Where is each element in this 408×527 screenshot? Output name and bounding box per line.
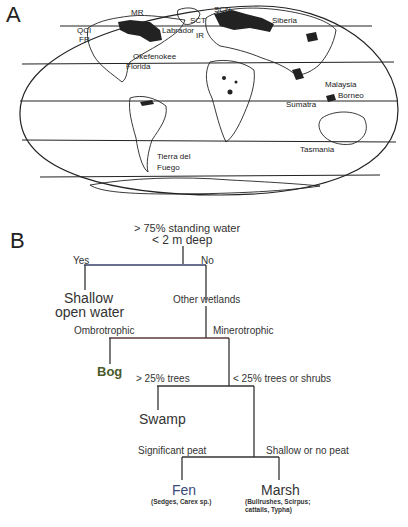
node-bog: Bog [97, 364, 122, 379]
branch-significant-peat: Significant peat [138, 445, 206, 456]
branch-minerotrophic: Minerotrophic [213, 325, 274, 336]
node-fen: Fen [172, 482, 196, 498]
root-question-line2: < 2 m deep [152, 233, 212, 247]
marsh-note-line1: (Bullrushes, Scirpus; [245, 498, 310, 505]
branch-ombrotrophic: Ombrotrophic [74, 325, 135, 336]
branch-gt25-trees: > 25% trees [136, 373, 190, 384]
node-marsh: Marsh [261, 482, 300, 498]
node-shallow-open-water-line2: open water [55, 304, 124, 320]
marsh-note-line2: cattails, Typha) [245, 506, 292, 513]
branch-shallow-or-no-peat: Shallow or no peat [266, 445, 349, 456]
branch-lt25-trees-or-shrubs: < 25% trees or shrubs [233, 373, 331, 384]
branch-yes: Yes [73, 255, 89, 266]
node-other-wetlands: Other wetlands [173, 294, 240, 305]
node-swamp: Swamp [139, 411, 186, 427]
fen-note: (Sedges, Carex sp.) [151, 498, 211, 505]
branch-no: No [201, 255, 214, 266]
